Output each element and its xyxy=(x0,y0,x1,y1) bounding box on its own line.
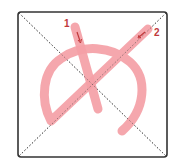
stroke-number-2: 2 xyxy=(154,27,160,38)
stroke-number-1: 1 xyxy=(64,18,70,29)
diagram-canvas: 1 2 xyxy=(0,0,174,168)
stroke-order-diagram: 1 2 xyxy=(0,0,174,168)
